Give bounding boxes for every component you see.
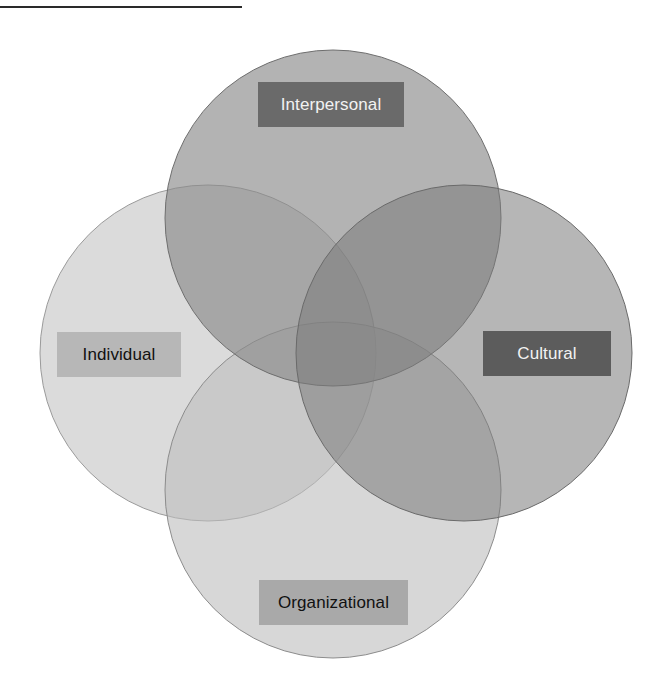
interpersonal-label: Interpersonal: [258, 82, 404, 127]
individual-label: Individual: [57, 332, 181, 377]
cultural-label: Cultural: [483, 331, 611, 376]
organizational-label: Organizational: [259, 580, 408, 625]
